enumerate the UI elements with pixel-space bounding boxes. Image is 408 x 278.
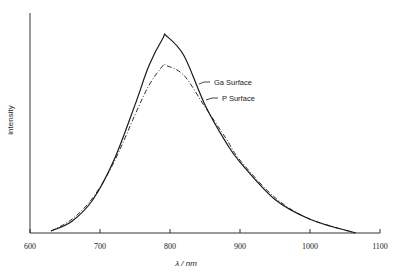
- axes: [30, 13, 380, 233]
- y-axis-label: intensity: [6, 105, 15, 134]
- legend-ga: Ga Surface: [199, 78, 252, 87]
- emission-spectrum-chart: 600 700 800 900 1000 1100 λ / nm intensi…: [0, 0, 408, 278]
- x-tick-label: 600: [24, 242, 36, 251]
- series-ga-surface: [51, 34, 356, 233]
- legend-label-ga: Ga Surface: [214, 78, 252, 87]
- x-tick-label: 1000: [302, 242, 318, 251]
- x-tick-label: 900: [234, 242, 246, 251]
- legend-p: P Surface: [206, 94, 255, 103]
- legend-leader-ga: [199, 82, 210, 84]
- x-tick-labels: 600 700 800 900 1000 1100: [24, 242, 388, 251]
- legend-leader-p: [206, 98, 218, 100]
- x-tick-label: 800: [164, 242, 176, 251]
- x-tick-label: 1100: [372, 242, 388, 251]
- series-p-surface: [51, 64, 356, 233]
- legend-label-p: P Surface: [222, 94, 255, 103]
- x-ticks: [30, 229, 380, 233]
- x-tick-label: 700: [94, 242, 106, 251]
- x-axis-label: λ / nm: [174, 259, 197, 268]
